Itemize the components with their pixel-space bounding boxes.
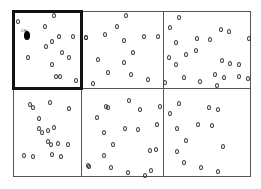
- point-circle: [155, 122, 159, 127]
- point-circle: [48, 100, 52, 105]
- point-circle: [196, 122, 200, 127]
- point-circle: [199, 165, 203, 170]
- point-circle: [216, 107, 220, 112]
- point-circle: [246, 76, 250, 81]
- point-circle: [124, 13, 128, 18]
- point-circle: [168, 111, 172, 116]
- point-circle: [213, 72, 217, 77]
- point-circle: [106, 105, 110, 110]
- point-circle: [49, 142, 53, 147]
- point-circle: [91, 81, 95, 86]
- point-circle: [59, 154, 63, 159]
- point-circle: [237, 74, 241, 79]
- point-circle: [115, 24, 119, 29]
- point-circle: [154, 147, 158, 152]
- point-circle: [207, 105, 211, 110]
- point-circle: [103, 32, 107, 37]
- point-circle: [50, 152, 54, 157]
- point-circle: [247, 36, 251, 41]
- point-circle: [177, 15, 181, 20]
- point-circle: [123, 126, 127, 131]
- point-circle: [221, 144, 225, 149]
- point-circle: [149, 168, 153, 173]
- point-circle: [31, 105, 35, 110]
- point-circle: [177, 101, 181, 106]
- point-circle: [37, 116, 41, 121]
- point-circle: [210, 123, 214, 128]
- point-circle: [208, 37, 212, 42]
- grid-line-vertical: [163, 11, 164, 176]
- quadrat-grid-diagram: CH': [0, 0, 261, 189]
- point-circle: [52, 13, 56, 18]
- point-circle: [109, 165, 113, 170]
- point-circle: [129, 72, 133, 77]
- point-circle: [194, 48, 198, 53]
- point-circle: [184, 138, 188, 143]
- point-circle: [195, 36, 199, 41]
- point-circle: [102, 130, 106, 135]
- point-circle: [71, 34, 75, 39]
- point-circle: [67, 55, 71, 60]
- point-circle: [198, 79, 202, 84]
- point-circle: [96, 57, 100, 62]
- point-circle: [66, 142, 70, 147]
- point-circle: [57, 34, 61, 39]
- point-circle: [40, 130, 44, 135]
- point-circle: [16, 19, 20, 24]
- point-circle: [215, 83, 219, 88]
- point-circle: [184, 52, 188, 57]
- point-circle: [174, 62, 178, 67]
- point-circle: [227, 29, 231, 34]
- point-circle: [56, 141, 60, 146]
- point-circle: [146, 77, 150, 82]
- grid-line-horizontal: [13, 176, 251, 177]
- point-circle: [168, 25, 172, 30]
- point-circle: [131, 50, 135, 55]
- point-circle: [182, 75, 186, 80]
- point-circle: [216, 169, 220, 174]
- point-circle: [84, 35, 88, 40]
- point-circle: [167, 55, 171, 60]
- point-circle: [156, 34, 160, 39]
- point-circle: [50, 62, 54, 67]
- point-circle: [60, 50, 64, 55]
- point-circle: [222, 75, 226, 80]
- point-circle: [174, 40, 178, 45]
- point-label: CH: [21, 29, 27, 33]
- point-circle: [237, 62, 241, 67]
- point-circle: [136, 127, 140, 132]
- point-circle: [127, 98, 131, 103]
- point-circle: [87, 164, 91, 169]
- point-circle: [175, 149, 179, 154]
- point-circle: [74, 78, 78, 83]
- point-circle: [126, 170, 130, 175]
- point-circle: [220, 58, 224, 63]
- point-circle: [44, 44, 48, 49]
- point-circle: [95, 115, 99, 120]
- point-circle: [219, 27, 223, 32]
- point-circle: [102, 153, 106, 158]
- highlighted-quadrat: [12, 10, 83, 90]
- point-circle: [52, 125, 56, 130]
- point-circle: [182, 160, 186, 165]
- point-circle: [46, 128, 50, 133]
- point-circle: [158, 104, 162, 109]
- point-circle: [58, 74, 62, 79]
- point-circle: [148, 148, 152, 153]
- point-circle: [111, 142, 115, 147]
- point-circle: [26, 55, 30, 60]
- corner-mark: ': [9, 180, 10, 184]
- point-circle: [22, 153, 26, 158]
- point-circle: [143, 173, 147, 178]
- point-circle: [122, 38, 126, 43]
- point-circle: [31, 154, 35, 159]
- point-circle: [228, 61, 232, 66]
- point-circle: [163, 80, 167, 85]
- point-circle: [122, 60, 126, 65]
- point-circle: [138, 107, 142, 112]
- point-circle: [50, 39, 54, 44]
- point-circle: [106, 70, 110, 75]
- point-circle: [43, 24, 47, 29]
- point-circle: [67, 106, 71, 111]
- point-circle: [142, 34, 146, 39]
